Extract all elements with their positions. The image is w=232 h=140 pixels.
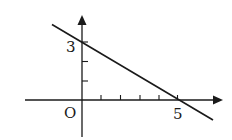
coordinate-diagram: 3 O 5 [0,0,232,140]
y-intercept-label: 3 [66,38,76,56]
x-axis-arrow-icon [213,96,223,105]
y-axis-ticks [82,42,88,81]
x-intercept-label: 5 [173,105,183,123]
y-axis-arrow-icon [78,15,87,25]
x-axis-ticks [101,95,178,100]
origin-label: O [64,104,76,122]
